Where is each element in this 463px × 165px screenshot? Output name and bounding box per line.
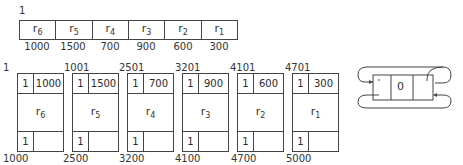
block-end-address: 1000 [3, 153, 28, 164]
top-start-address: 1 [19, 6, 26, 16]
block-start-address: 3201 [175, 62, 200, 73]
footer-tag: 1 [128, 132, 144, 151]
block-header: 11500 [73, 74, 118, 94]
record-length: 1500 [55, 41, 91, 52]
block-footer: 1 [73, 131, 118, 151]
record-label: r1 [214, 23, 224, 38]
record-cell: r6 [20, 21, 56, 39]
block-start-address: 4701 [285, 62, 310, 73]
block-footer: 1 [238, 131, 283, 151]
block-end-address: 4100 [175, 153, 200, 164]
block-start-address: 1 [3, 62, 9, 73]
header-size: 900 [199, 74, 228, 93]
header-size: 1500 [89, 74, 118, 93]
footer-tag: 1 [238, 132, 254, 151]
record-label: r5 [69, 23, 79, 38]
block-header: 1900 [183, 74, 228, 94]
header-tag: 1 [73, 74, 89, 93]
record-length: 600 [165, 41, 201, 52]
record-cell: r5 [56, 21, 92, 39]
block-record-label: r4 [146, 105, 156, 120]
record-cell: r4 [93, 21, 129, 39]
memory-block: 1900 r3 1 [182, 73, 229, 152]
block-header: 1600 [238, 74, 283, 94]
doubly-linked-loop-icon [355, 65, 455, 110]
free-list-diagram: 0 [355, 65, 455, 110]
memory-block: 1700 r4 1 [127, 73, 174, 152]
block-footer: 1 [293, 131, 338, 151]
record-cell: r3 [129, 21, 165, 39]
free-list-node-value: 0 [397, 81, 404, 92]
header-tag: 1 [128, 74, 144, 93]
block-footer: 1 [18, 131, 63, 151]
record-label: r3 [142, 23, 152, 38]
header-size: 700 [144, 74, 173, 93]
record-length: 300 [201, 41, 237, 52]
record-label: r2 [178, 23, 188, 38]
header-tag: 1 [183, 74, 199, 93]
block-record-label: r1 [311, 105, 321, 120]
memory-block: 1300 r1 1 [292, 73, 339, 152]
record-cell: r1 [202, 21, 237, 39]
block-start-address: 2501 [119, 62, 144, 73]
record-sequence-bar: r6 r5 r4 r3 r2 r1 [19, 20, 238, 40]
header-size: 600 [254, 74, 283, 93]
block-record-label: r5 [91, 105, 101, 120]
block-end-address: 2500 [63, 153, 88, 164]
block-end-address: 5000 [286, 153, 311, 164]
header-size: 300 [309, 74, 338, 93]
block-start-address: 1001 [64, 62, 89, 73]
record-length: 1000 [19, 41, 55, 52]
record-label: r6 [33, 23, 43, 38]
record-length: 900 [128, 41, 164, 52]
record-length: 700 [92, 41, 128, 52]
block-header: 1700 [128, 74, 173, 94]
record-label: r4 [106, 23, 116, 38]
block-record-label: r6 [36, 105, 46, 120]
header-tag: 1 [238, 74, 254, 93]
memory-block: 1600 r2 1 [237, 73, 284, 152]
header-tag: 1 [18, 74, 34, 93]
footer-tag: 1 [73, 132, 89, 151]
header-tag: 1 [293, 74, 309, 93]
block-record-label: r3 [201, 105, 211, 120]
block-footer: 1 [183, 131, 228, 151]
footer-tag: 1 [293, 132, 309, 151]
block-footer: 1 [128, 131, 173, 151]
block-start-address: 4101 [230, 62, 255, 73]
block-end-address: 3200 [119, 153, 144, 164]
block-header: 1300 [293, 74, 338, 94]
header-size: 1000 [34, 74, 63, 93]
block-header: 11000 [18, 74, 63, 94]
footer-tag: 1 [18, 132, 34, 151]
memory-block: 11000 r6 1 [17, 73, 64, 152]
record-cell: r2 [165, 21, 201, 39]
memory-block: 11500 r5 1 [72, 73, 119, 152]
footer-tag: 1 [183, 132, 199, 151]
block-end-address: 4700 [231, 153, 256, 164]
block-record-label: r2 [256, 105, 266, 120]
